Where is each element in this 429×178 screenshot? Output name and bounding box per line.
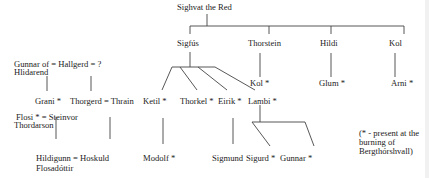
person-thorkel: Thorkel * bbox=[180, 97, 214, 106]
person-thorstein: Thorstein bbox=[248, 39, 281, 48]
person-kol-parent: Kol bbox=[389, 39, 402, 48]
person-sighvat-the-red: Sighvat the Red bbox=[177, 3, 232, 12]
person-hildigunn-flosadottir: Flosadóttir bbox=[36, 164, 73, 173]
person-glum: Glum * bbox=[319, 79, 345, 88]
person-gunnar-hlidarend: Hlidarend bbox=[14, 68, 48, 77]
person-sigmund: Sigmund bbox=[212, 154, 243, 163]
person-modolf: Modolf * bbox=[143, 154, 175, 163]
page-edge bbox=[425, 0, 429, 178]
person-sigfus: Sigfús bbox=[177, 39, 199, 48]
person-eirik: Eirik * bbox=[218, 97, 242, 106]
person-hildigunn-hoskuld: Hildigunn = Hoskuld bbox=[36, 154, 109, 163]
person-thorgerd-thrain: Thorgerd = Thrain bbox=[70, 97, 134, 106]
person-hildi: Hildi bbox=[320, 39, 338, 48]
person-gunnar: Gunnar * bbox=[280, 154, 312, 163]
person-kol-child: Kol * bbox=[250, 79, 269, 88]
person-lambi: Lambi * bbox=[248, 97, 277, 106]
legend-note-line3: Bergthórshvall) bbox=[359, 147, 413, 156]
person-arni: Arni * bbox=[391, 79, 413, 88]
person-flosi-thordarson: Thordarson bbox=[14, 121, 54, 130]
person-grani: Grani * bbox=[35, 97, 61, 106]
person-sigurd: Sigurd * bbox=[246, 154, 275, 163]
person-ketil: Ketil * bbox=[143, 97, 167, 106]
